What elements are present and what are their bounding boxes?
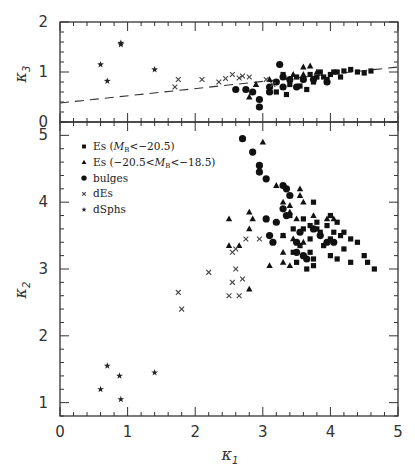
circle-marker: [330, 239, 337, 246]
triangle-marker: [246, 286, 252, 292]
triangle-marker: [287, 262, 293, 268]
square-marker: [82, 145, 86, 149]
star-marker: [104, 362, 111, 369]
x-tick-label: 5: [393, 423, 403, 441]
x-marker: [230, 72, 235, 77]
x-marker: [176, 77, 181, 82]
circle-marker: [317, 232, 324, 239]
x-marker: [82, 192, 86, 196]
series-triangle: [226, 139, 337, 292]
square-marker: [324, 223, 329, 228]
series-triangle: [246, 63, 320, 100]
square-marker: [341, 68, 346, 73]
star-marker: [81, 207, 86, 212]
circle-marker: [266, 88, 273, 95]
square-marker: [365, 260, 370, 265]
circle-marker: [310, 76, 317, 83]
triangle-marker: [246, 209, 252, 215]
triangle-marker: [273, 182, 279, 188]
circle-marker: [283, 185, 290, 192]
y-axis-title-top: κ3: [11, 66, 32, 84]
square-marker: [355, 240, 360, 245]
circle-marker: [276, 61, 283, 68]
series-x: [176, 237, 262, 312]
square-marker: [341, 230, 346, 235]
star-marker: [97, 61, 104, 68]
star-marker: [117, 41, 124, 48]
square-marker: [311, 200, 316, 205]
square-marker: [294, 260, 299, 265]
legend-item-circle: bulges: [81, 172, 128, 184]
circle-marker: [263, 175, 270, 182]
square-marker: [308, 236, 313, 241]
square-marker: [335, 256, 340, 261]
y-axis-title-bottom: κ2: [11, 282, 32, 300]
square-marker: [301, 216, 306, 221]
star-marker: [151, 66, 158, 73]
x-marker: [230, 280, 235, 285]
y-tick-label: 1: [38, 63, 48, 81]
x-marker: [247, 75, 252, 80]
circle-marker: [256, 103, 263, 110]
y-tick-label: 5: [38, 126, 48, 144]
series-star: [97, 362, 158, 402]
triangle-marker: [82, 160, 87, 164]
star-marker: [151, 369, 158, 376]
circle-marker: [269, 239, 276, 246]
triangle-marker: [260, 139, 266, 145]
circle-marker: [279, 205, 286, 212]
triangle-marker: [290, 71, 296, 77]
x-marker: [233, 267, 238, 272]
square-marker: [355, 69, 360, 74]
circle-marker: [256, 162, 263, 169]
circle-marker: [323, 78, 330, 85]
circle-marker: [279, 73, 286, 80]
circle-marker: [81, 175, 86, 180]
x-marker: [233, 247, 238, 252]
triangle-marker: [280, 259, 286, 265]
y-tick-label: 4: [38, 193, 48, 211]
triangle-marker: [297, 192, 303, 198]
circle-marker: [286, 192, 293, 199]
triangle-marker: [310, 212, 316, 218]
triangle-marker: [280, 249, 286, 255]
triangle-marker: [249, 215, 255, 221]
y-tick-label: 1: [38, 394, 48, 412]
square-marker: [338, 74, 343, 79]
x-marker: [227, 293, 232, 298]
square-marker: [328, 213, 333, 218]
square-marker: [308, 250, 313, 255]
x-tick-label: 3: [258, 423, 268, 441]
circle-marker: [256, 96, 263, 103]
x-marker: [173, 85, 178, 90]
x-marker: [237, 293, 242, 298]
x-tick-label: 1: [123, 423, 133, 441]
circle-marker: [256, 169, 263, 176]
circle-marker: [249, 148, 256, 155]
x-tick-label: 2: [190, 423, 200, 441]
circle-marker: [232, 86, 239, 93]
star-marker: [104, 77, 111, 84]
circle-marker: [296, 229, 303, 236]
square-marker: [311, 256, 316, 261]
legend-label: Es (−20.5<MB<−18.5): [93, 156, 215, 170]
triangle-marker: [293, 215, 299, 221]
circle-marker: [249, 88, 256, 95]
legend-item-triangle: Es (−20.5<MB<−18.5): [82, 156, 216, 170]
triangle-marker: [226, 242, 232, 248]
legend-item-x: dEs: [82, 187, 113, 199]
y-tick-label: 2: [38, 327, 48, 345]
triangle-marker: [280, 199, 286, 205]
legend-label: dSphs: [93, 203, 126, 215]
circle-marker: [266, 232, 273, 239]
triangle-marker: [246, 226, 252, 232]
series-circle: [232, 61, 330, 111]
triangle-marker: [226, 215, 232, 221]
circle-marker: [263, 215, 270, 222]
x-marker: [244, 237, 249, 242]
x-marker: [179, 307, 184, 312]
circle-marker: [242, 86, 249, 93]
square-marker: [348, 260, 353, 265]
x-marker: [176, 290, 181, 295]
circle-marker: [300, 76, 307, 83]
